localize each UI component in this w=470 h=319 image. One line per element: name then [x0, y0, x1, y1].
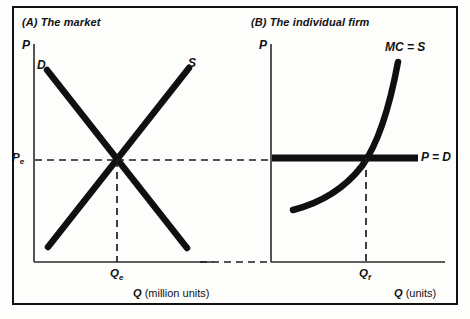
panel-b-axes [271, 44, 445, 262]
firm-output-label: Qf [359, 268, 371, 280]
figure-container: (A) The market P D S Pe Qe Q (million un… [0, 0, 470, 319]
firm-output-symbol: Q [359, 267, 368, 279]
equilibrium-quantity-label: Qe [110, 268, 123, 280]
demand-curve-label: D [37, 59, 46, 71]
supply-curve-label: S [188, 57, 196, 69]
firm-output-subscript: f [368, 273, 371, 282]
panel-a-x-axis-caption-units: (million units) [145, 287, 210, 299]
panel-a-y-axis-label: P [22, 39, 30, 51]
marginal-cost-supply-curve-label: MC = S [385, 41, 425, 53]
panel-b-title: (B) The individual firm [251, 17, 369, 28]
panel-b-x-axis-caption: Q (units) [394, 288, 436, 299]
equilibrium-price-label: Pe [12, 152, 24, 164]
panel-a-x-axis-caption-symbol: Q [133, 287, 142, 299]
panel-b-x-axis-caption-units: (units) [406, 287, 437, 299]
marginal-cost-supply-curve-firm [293, 62, 398, 210]
equilibrium-quantity-subscript: e [119, 273, 123, 282]
equilibrium-quantity-symbol: Q [110, 267, 119, 279]
panel-a-title: (A) The market [22, 17, 100, 28]
panel-b-x-axis-caption-symbol: Q [394, 287, 403, 299]
price-demand-line-label: P = D [421, 151, 451, 163]
panel-b-y-axis-label: P [259, 39, 267, 51]
panel-a-x-axis-caption: Q (million units) [133, 288, 209, 299]
equilibrium-price-subscript: e [20, 157, 24, 166]
equilibrium-price-symbol: P [12, 151, 20, 163]
